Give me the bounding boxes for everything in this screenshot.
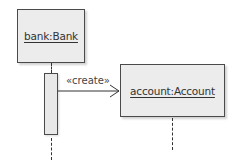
lifeline-account: account:Account <box>120 64 225 117</box>
create-message-label: «create» <box>66 75 110 86</box>
lifeline-account-label: account:Account <box>130 85 215 97</box>
lifeline-account-line <box>172 118 173 150</box>
